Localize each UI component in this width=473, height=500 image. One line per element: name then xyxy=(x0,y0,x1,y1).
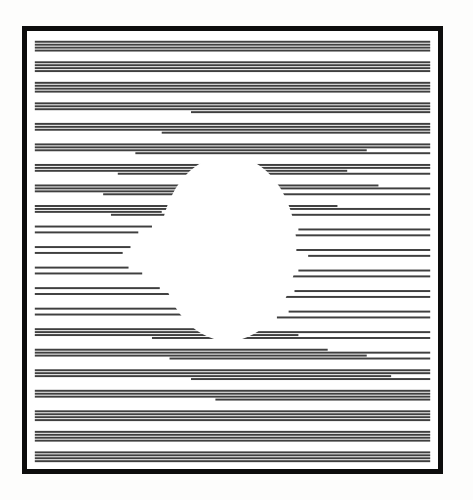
stripe-segment xyxy=(35,88,430,90)
stripe-segment xyxy=(35,91,430,93)
stripe-segment xyxy=(35,226,152,228)
stripe-segment xyxy=(35,434,430,436)
stripe-segment xyxy=(35,267,129,269)
stripe-segment xyxy=(35,105,430,107)
stripe-segment xyxy=(35,390,430,392)
stripe-segment xyxy=(215,399,430,401)
stripe-segment xyxy=(35,70,430,72)
stripe-segment xyxy=(135,152,430,154)
stripe-segment xyxy=(35,349,328,351)
stripe-segment xyxy=(35,334,299,336)
stripe-segment xyxy=(298,270,430,272)
stripe-segment xyxy=(170,358,431,360)
stripe-segment xyxy=(35,372,430,374)
stripe-segment xyxy=(289,311,431,313)
stripe-segment xyxy=(35,47,430,49)
stripe-segment xyxy=(35,287,160,289)
stripe-segment xyxy=(35,457,430,459)
stripe-segment xyxy=(35,246,131,248)
stripe-segment xyxy=(35,355,367,357)
stripe-segment xyxy=(294,290,430,292)
stripe-segment xyxy=(279,234,430,236)
stripe-segment xyxy=(35,413,430,415)
stripe-segment xyxy=(35,64,430,66)
horizontal-stripe-field xyxy=(27,31,438,469)
stripe-segment xyxy=(35,375,391,377)
stripe-segment xyxy=(35,416,430,418)
stripe-segment xyxy=(35,129,430,131)
stripe-segment xyxy=(191,378,430,380)
stripe-segment xyxy=(308,255,430,257)
stripe-segment xyxy=(191,111,430,113)
stripe-segment xyxy=(35,44,430,46)
stripe-segment xyxy=(35,126,430,128)
stripe-segment xyxy=(35,102,430,104)
stripe-segment xyxy=(35,82,430,84)
stripe-segment xyxy=(35,352,430,354)
stripe-segment xyxy=(35,369,430,371)
stripe-segment xyxy=(35,451,430,453)
artwork-plate xyxy=(27,31,438,469)
stripe-segment xyxy=(35,146,430,148)
stripe-segment xyxy=(35,149,367,151)
stripe-segment xyxy=(35,50,430,52)
stripe-segment xyxy=(35,460,430,462)
stripe-segment xyxy=(35,431,430,433)
stripe-segment xyxy=(35,396,430,398)
stripe-segment xyxy=(35,211,162,213)
stripe-segment xyxy=(35,123,430,125)
stripe-segment xyxy=(152,337,430,339)
stripe-segment xyxy=(35,393,430,395)
stripe-segment xyxy=(35,410,430,412)
stripe-segment xyxy=(298,228,430,230)
stripe-segment xyxy=(35,272,142,274)
central-oval-void xyxy=(160,155,297,341)
stripe-segment xyxy=(35,67,430,69)
stripe-segment xyxy=(271,296,430,298)
stripe-segment xyxy=(35,61,430,63)
stripe-segment xyxy=(35,41,430,43)
artwork-frame xyxy=(22,26,443,474)
stripe-segment xyxy=(35,143,430,145)
stripe-segment xyxy=(35,108,430,110)
stripe-segment xyxy=(284,275,430,277)
artwork-canvas xyxy=(0,0,473,500)
stripe-segment xyxy=(35,440,430,442)
stripe-segment xyxy=(35,252,123,254)
stripe-segment xyxy=(118,173,430,175)
stripe-segment xyxy=(35,231,138,233)
stripe-segment xyxy=(35,437,430,439)
stripe-segment xyxy=(35,85,430,87)
stripe-segment xyxy=(162,132,430,134)
stripe-segment xyxy=(35,454,430,456)
stripe-segment xyxy=(35,419,430,421)
stripe-segment xyxy=(277,316,430,318)
stripe-segment xyxy=(289,249,431,251)
